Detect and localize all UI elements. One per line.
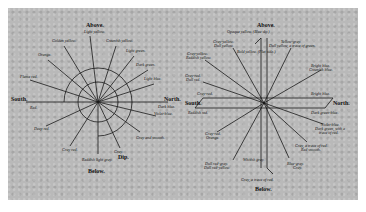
color-label: Dark blue. xyxy=(158,105,175,109)
color-label: Orange. xyxy=(38,53,51,57)
color-label: Gray, a trace of red. xyxy=(241,178,274,182)
color-label: Dull yellow. xyxy=(214,44,233,48)
color-label: Dull yellow, a trace of green. xyxy=(269,44,316,48)
direction-north: North. xyxy=(333,100,350,106)
color-label: Violet-blue. xyxy=(154,112,172,116)
color-label: Bold yellow. (Flat side.) xyxy=(237,50,275,54)
color-label: Dull red. xyxy=(186,78,200,82)
right-diagram-lines xyxy=(183,8,358,200)
direction-below: Below. xyxy=(255,186,272,192)
color-label: Gray and smooth. xyxy=(136,136,165,140)
color-label: Dark green. xyxy=(136,63,155,67)
direction-dip: Dip. xyxy=(118,154,129,160)
color-label: Dull red-yellow. xyxy=(204,166,230,170)
color-label: Whitish gray. xyxy=(243,158,264,162)
color-label: Golden yellow. xyxy=(52,39,76,43)
color-label: Reddish yellow. xyxy=(186,56,211,60)
color-label: Bright blue. xyxy=(311,92,330,96)
color-label: Gray red. xyxy=(62,148,77,152)
direction-above: Above. xyxy=(86,22,104,28)
direction-south: South. xyxy=(11,96,28,102)
right-polarization-diagram: Above. South. North. Below. Opaque yello… xyxy=(183,8,358,200)
color-label: Greenish blue. xyxy=(309,68,332,72)
color-label: Reddish light gray. xyxy=(82,158,112,162)
color-label: Deep red. xyxy=(34,127,50,131)
color-label: Red. xyxy=(30,106,37,110)
color-label: Light yellow. xyxy=(84,30,105,34)
color-label: Gray-red. xyxy=(197,92,213,96)
color-label: Red smooth. xyxy=(301,148,321,152)
color-label: Gray. xyxy=(293,166,302,170)
color-label: Gray. xyxy=(114,150,123,154)
figure-plate: Above. South. North. Dip. Below. Light y… xyxy=(8,8,358,200)
direction-below: Below. xyxy=(88,168,105,174)
color-label: Light blue. xyxy=(144,77,161,81)
color-label: Light green. xyxy=(126,49,145,53)
direction-above: Above. xyxy=(257,22,275,28)
color-label: Dark green-blue. xyxy=(311,111,338,115)
color-label: Reddish red. xyxy=(188,111,208,115)
left-polarization-diagram: Above. South. North. Dip. Below. Light y… xyxy=(8,8,183,200)
color-label: trace of red. xyxy=(319,131,339,135)
color-label: Flame red. xyxy=(20,75,37,79)
color-label: Greenish yellow. xyxy=(106,39,133,43)
direction-north: North. xyxy=(164,96,181,102)
color-label: Opaque yellow. (Blue sky.) xyxy=(227,30,270,34)
direction-south: South. xyxy=(185,100,202,106)
color-label: Orange. xyxy=(206,136,219,140)
